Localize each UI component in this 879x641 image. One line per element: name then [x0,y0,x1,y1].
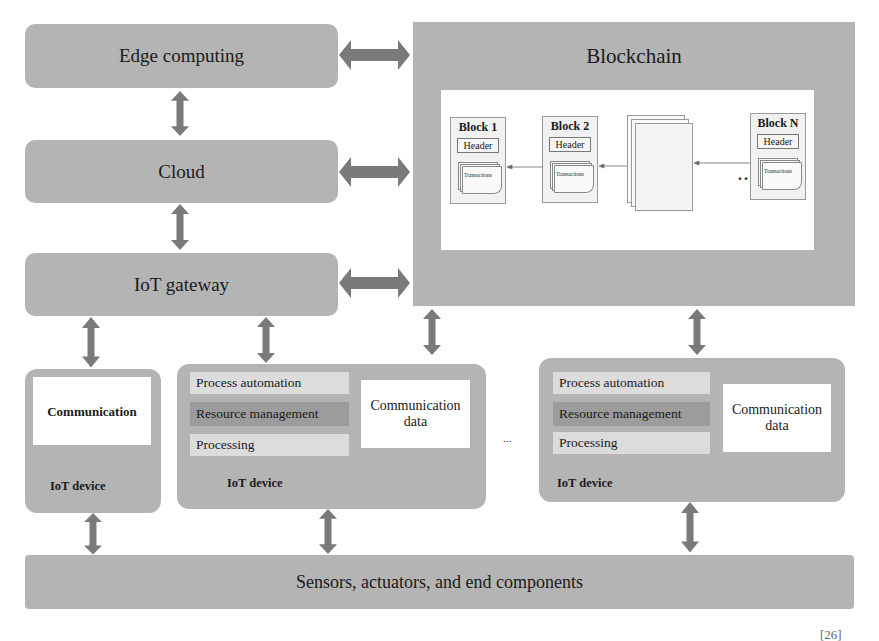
vertical-double-arrows [82,91,706,554]
horizontal-double-arrows [339,40,410,298]
connector-arrows [0,0,879,641]
